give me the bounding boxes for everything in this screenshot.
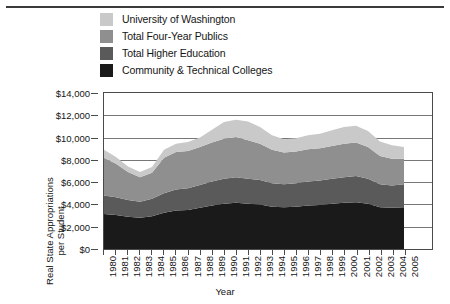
y-axis-tick-label: $2,000 bbox=[61, 221, 90, 232]
x-axis-tick-mark bbox=[272, 250, 273, 255]
x-axis-tick-mark bbox=[248, 250, 249, 255]
legend-swatch-icon bbox=[100, 64, 113, 77]
x-axis-tick-mark bbox=[344, 250, 345, 255]
x-axis-tick-label: 1988 bbox=[204, 256, 215, 277]
x-axis-tick-label: 1998 bbox=[324, 256, 335, 277]
x-axis-tick-mark bbox=[175, 250, 176, 255]
x-axis-tick-mark bbox=[151, 250, 152, 255]
x-axis-tick-label: 1984 bbox=[155, 256, 166, 277]
x-axis-tick-mark bbox=[393, 250, 394, 255]
x-axis-tick-label: 1996 bbox=[300, 256, 311, 277]
y-axis-tick-mark bbox=[91, 115, 98, 116]
x-axis-tick-mark bbox=[103, 250, 104, 255]
legend-item: University of Washington bbox=[100, 11, 272, 27]
x-axis-tick-mark bbox=[200, 250, 201, 255]
legend-label: University of Washington bbox=[122, 13, 235, 25]
x-axis-tick-mark bbox=[369, 250, 370, 255]
y-axis-tick-mark bbox=[91, 182, 98, 183]
x-axis-tick-label: 1980 bbox=[107, 256, 118, 277]
y-axis-tick-mark bbox=[91, 227, 98, 228]
x-axis-tick-label: 2001 bbox=[361, 256, 372, 277]
chart-legend: University of WashingtonTotal Four-Year … bbox=[100, 11, 272, 79]
y-axis-tick-label: $12,000 bbox=[56, 110, 90, 121]
y-axis-tick-label: $8,000 bbox=[61, 154, 90, 165]
legend-swatch-icon bbox=[100, 13, 113, 26]
x-axis-tick-label: 1995 bbox=[288, 256, 299, 277]
x-axis-tick-mark bbox=[163, 250, 164, 255]
legend-label: Total Higher Education bbox=[122, 47, 225, 59]
legend-item: Community & Technical Colleges bbox=[100, 62, 272, 78]
plot-area bbox=[103, 92, 433, 250]
legend-label: Community & Technical Colleges bbox=[122, 64, 272, 76]
y-axis-title-line1: Real State Appropriations bbox=[44, 177, 55, 285]
x-axis-tick-label: 1983 bbox=[143, 256, 154, 277]
x-axis-tick-mark bbox=[308, 250, 309, 255]
y-axis-tick-label: $4,000 bbox=[61, 199, 90, 210]
legend-item: Total Four-Year Publics bbox=[100, 28, 272, 44]
x-axis-tick-mark bbox=[224, 250, 225, 255]
x-axis-tick-label: 1997 bbox=[312, 256, 323, 277]
stacked-area-chart bbox=[104, 93, 432, 249]
y-axis-tick-mark bbox=[91, 249, 98, 250]
x-axis-tick-label: 2003 bbox=[385, 256, 396, 277]
legend-swatch-icon bbox=[100, 30, 113, 43]
x-axis-tick-label: 1989 bbox=[216, 256, 227, 277]
y-axis-tick-label: $10,000 bbox=[56, 132, 90, 143]
x-axis-tick-mark bbox=[260, 250, 261, 255]
y-axis-tick-label: $14,000 bbox=[56, 88, 90, 99]
y-axis-tick-label: $6,000 bbox=[61, 177, 90, 188]
x-axis-tick-label: 2000 bbox=[348, 256, 359, 277]
x-axis-tick-mark bbox=[296, 250, 297, 255]
x-axis-tick-label: 2002 bbox=[373, 256, 384, 277]
x-axis-tick-mark bbox=[284, 250, 285, 255]
x-axis-tick-mark bbox=[381, 250, 382, 255]
x-axis-tick-mark bbox=[236, 250, 237, 255]
x-axis-ticks bbox=[103, 250, 433, 255]
x-axis-tick-label: 1987 bbox=[192, 256, 203, 277]
x-axis-tick-mark bbox=[188, 250, 189, 255]
x-axis-tick-mark bbox=[405, 250, 406, 255]
legend-label: Total Four-Year Publics bbox=[122, 30, 228, 42]
x-axis-tick-mark bbox=[115, 250, 116, 255]
legend-item: Total Higher Education bbox=[100, 45, 272, 61]
x-axis-tick-label: 1990 bbox=[228, 256, 239, 277]
x-axis-tick-mark bbox=[139, 250, 140, 255]
x-axis-tick-label: 1994 bbox=[276, 256, 287, 277]
y-axis-tick-mark bbox=[91, 204, 98, 205]
y-axis-tick-mark bbox=[91, 93, 98, 94]
x-axis-tick-label: 1982 bbox=[131, 256, 142, 277]
x-axis-tick-label: 1992 bbox=[252, 256, 263, 277]
x-axis-title: Year bbox=[0, 286, 450, 297]
x-axis-tick-label: 1999 bbox=[336, 256, 347, 277]
y-axis: Real State Appropriations per Student $0… bbox=[36, 92, 98, 250]
x-axis-tick-mark bbox=[357, 250, 358, 255]
x-axis-tick-label: 1993 bbox=[264, 256, 275, 277]
x-axis-tick-label: 1986 bbox=[179, 256, 190, 277]
x-axis-tick-label: 1991 bbox=[240, 256, 251, 277]
x-axis-tick-mark bbox=[127, 250, 128, 255]
y-axis-tick-mark bbox=[91, 160, 98, 161]
x-axis-tick-label: 2004 bbox=[397, 256, 408, 277]
legend-swatch-icon bbox=[100, 47, 113, 60]
x-axis-tick-label: 1985 bbox=[167, 256, 178, 277]
x-axis-tick-mark bbox=[320, 250, 321, 255]
header-divider bbox=[6, 6, 444, 8]
x-axis-tick-mark bbox=[332, 250, 333, 255]
x-axis-tick-label: 2005 bbox=[409, 256, 420, 277]
y-axis-tick-mark bbox=[91, 138, 98, 139]
x-axis-tick-label: 1981 bbox=[119, 256, 130, 277]
y-axis-tick-label: $0 bbox=[79, 244, 90, 255]
x-axis-labels: 1980198119821983198419851986198719881989… bbox=[103, 256, 433, 290]
x-axis-tick-mark bbox=[212, 250, 213, 255]
